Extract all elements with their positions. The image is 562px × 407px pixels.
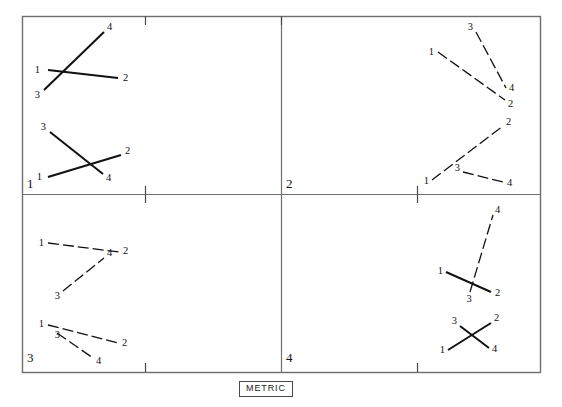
p1-fig-a-point-label-3: 3	[35, 89, 40, 100]
figure-canvas: 112341234212341234312341234412341234	[0, 0, 562, 407]
panel-4-number: 4	[286, 350, 293, 365]
p2-fig-b: 1234	[424, 116, 513, 188]
p2-fig-b-segment-1-2	[432, 126, 503, 180]
p3-fig-a-point-label-1: 1	[39, 237, 44, 248]
p4-fig-a-point-label-1: 1	[438, 265, 443, 276]
p1-fig-b-point-label-4: 4	[106, 172, 112, 183]
p2-fig-a-point-label-4: 4	[509, 82, 515, 93]
p2-fig-a-segment-1-2	[438, 52, 505, 100]
p3-fig-b-point-label-1: 1	[39, 318, 44, 329]
panel-4: 412341234	[286, 204, 501, 365]
p1-fig-a: 1234	[35, 21, 129, 100]
p4-fig-a-segment-3-4	[470, 215, 493, 292]
p4-fig-b: 1234	[440, 312, 500, 355]
p4-fig-b-point-label-3: 3	[452, 315, 457, 326]
p2-fig-a-point-label-3: 3	[468, 21, 473, 32]
metric-caption-box: METRIC	[239, 381, 293, 397]
p3-fig-a-segment-3-4	[63, 258, 104, 291]
p2-fig-b-point-label-2: 2	[506, 116, 511, 127]
p2-fig-b-point-label-1: 1	[424, 175, 429, 186]
p2-fig-b-point-label-3: 3	[455, 162, 460, 173]
metric-caption-label: METRIC	[246, 383, 286, 393]
p3-fig-a-point-label-3: 3	[55, 290, 60, 301]
p3-fig-a: 1234	[39, 237, 129, 301]
p3-fig-b-point-label-3: 3	[55, 329, 60, 340]
p4-fig-b-segment-3-4	[460, 326, 489, 348]
p1-fig-b: 1234	[37, 121, 131, 183]
panel-2-number: 2	[286, 176, 293, 191]
p3-fig-a-point-label-4: 4	[107, 247, 113, 258]
p2-fig-b-segment-3-4	[463, 172, 503, 182]
p1-fig-a-point-label-1: 1	[35, 64, 40, 75]
p4-fig-b-point-label-1: 1	[440, 344, 445, 355]
p2-fig-b-point-label-4: 4	[507, 177, 513, 188]
p3-fig-b-point-label-2: 2	[122, 337, 127, 348]
p4-fig-b-point-label-2: 2	[494, 312, 499, 323]
four-panel-line-figure: 112341234212341234312341234412341234	[0, 0, 562, 407]
p3-fig-a-point-label-2: 2	[123, 245, 128, 256]
p1-fig-b-point-label-2: 2	[125, 145, 130, 156]
p2-fig-a-point-label-2: 2	[508, 98, 513, 109]
panel-3: 312341234	[27, 237, 128, 366]
p4-fig-a-point-label-2: 2	[495, 287, 500, 298]
p3-fig-b-point-label-4: 4	[96, 355, 102, 366]
p2-fig-a: 1234	[429, 21, 515, 109]
panel-3-number: 3	[27, 350, 34, 365]
p4-fig-b-point-label-4: 4	[492, 343, 498, 354]
p2-fig-a-segment-3-4	[476, 32, 506, 88]
p2-fig-a-point-label-1: 1	[429, 46, 434, 57]
p4-fig-a-point-label-4: 4	[495, 204, 501, 215]
panel-2: 212341234	[286, 21, 515, 191]
p1-fig-a-point-label-4: 4	[107, 21, 113, 32]
p3-fig-b-segment-3-4	[57, 333, 93, 358]
p1-fig-b-point-label-3: 3	[41, 121, 46, 132]
p4-fig-a: 1234	[438, 204, 501, 304]
p4-fig-a-point-label-3: 3	[466, 293, 471, 304]
panel-1-number: 1	[27, 176, 34, 191]
p1-fig-a-segment-3-4	[44, 32, 104, 90]
p4-fig-b-segment-1-2	[448, 323, 491, 350]
p1-fig-a-point-label-2: 2	[123, 72, 128, 83]
p4-fig-a-segment-1-2	[446, 272, 491, 292]
p1-fig-b-point-label-1: 1	[37, 171, 42, 182]
p3-fig-b: 1234	[39, 318, 128, 366]
panel-1: 112341234	[27, 21, 130, 191]
